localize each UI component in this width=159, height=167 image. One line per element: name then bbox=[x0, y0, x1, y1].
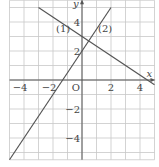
graph: −4−22442−2−4Oxy(1)(2) bbox=[0, 0, 159, 167]
y-tick-label: −4 bbox=[65, 133, 80, 144]
y-tick-label: −2 bbox=[65, 104, 80, 115]
line-label-2: (2) bbox=[98, 23, 112, 34]
y-tick-label: 4 bbox=[74, 17, 80, 28]
line-label-1: (1) bbox=[56, 23, 70, 34]
y-tick-label: 2 bbox=[74, 46, 80, 57]
axes bbox=[10, 0, 156, 160]
x-tick-label: 4 bbox=[137, 82, 143, 93]
x-tick-label: −4 bbox=[13, 82, 28, 93]
y-axis-label: y bbox=[72, 0, 79, 9]
x-tick-label: −2 bbox=[42, 82, 57, 93]
x-tick-label: 2 bbox=[108, 82, 114, 93]
origin-label: O bbox=[72, 82, 80, 93]
x-axis-label: x bbox=[147, 68, 153, 79]
